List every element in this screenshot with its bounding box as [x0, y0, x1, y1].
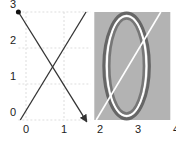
- y-tick-label: 2: [10, 34, 16, 46]
- x-tick-label: 0: [23, 123, 29, 135]
- y-tick-label: 1: [10, 70, 16, 82]
- start-dot-marker: [16, 10, 21, 15]
- x-tick-label: 1: [61, 123, 67, 135]
- x-tick-label: 4: [173, 123, 176, 135]
- x-tick-label: 2: [97, 123, 103, 135]
- left-panel: 0123 01: [10, 0, 91, 135]
- right-x-tick-labels: 234: [97, 123, 176, 135]
- x-tick-label: 3: [135, 123, 141, 135]
- left-y-tick-labels: 0123: [10, 0, 16, 118]
- left-x-tick-labels: 01: [23, 123, 67, 135]
- y-tick-label: 0: [10, 106, 16, 118]
- right-panel: 234: [94, 12, 176, 135]
- left-series: [16, 10, 87, 122]
- y-tick-label: 3: [10, 0, 16, 10]
- figure: 0123 01 234: [0, 0, 176, 141]
